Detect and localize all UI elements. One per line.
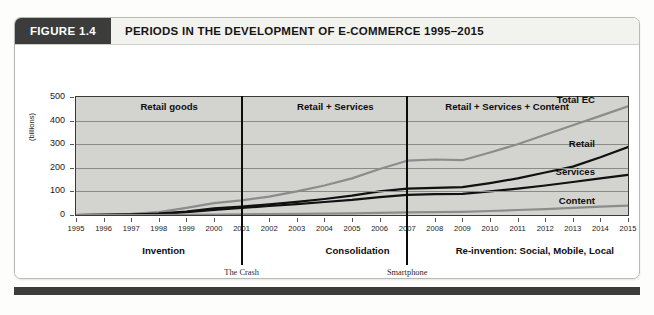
gridline — [76, 168, 628, 169]
y-tick-label: 500 — [35, 91, 65, 101]
period-divider — [241, 96, 243, 265]
x-tick-label: 1997 — [116, 224, 146, 233]
y-tick-mark — [70, 215, 74, 216]
figure-number-tag: FIGURE 1.4 — [15, 18, 111, 44]
series-lines — [76, 97, 628, 215]
series-line-total-ec — [76, 106, 628, 214]
event-label: The Crash2000 — [182, 267, 302, 279]
y-tick-mark — [70, 191, 74, 192]
x-tick-mark — [462, 218, 463, 222]
x-tick-label: 1999 — [171, 224, 201, 233]
figure-body: (billions) 0100200300400500 199519961997… — [15, 45, 639, 279]
series-label-content: Content — [559, 195, 595, 206]
x-tick-mark — [186, 218, 187, 222]
phase-label: Re-invention: Social, Mobile, Local — [456, 245, 614, 256]
phase-label: Invention — [142, 245, 185, 256]
x-tick-label: 2003 — [282, 224, 312, 233]
series-label-retail: Retail — [569, 138, 595, 149]
x-tick-label: 1996 — [89, 224, 119, 233]
x-tick-label: 2009 — [447, 224, 477, 233]
x-tick-label: 2008 — [420, 224, 450, 233]
y-tick-mark — [70, 168, 74, 169]
x-tick-mark — [628, 218, 629, 222]
y-tick-mark — [70, 121, 74, 122]
x-tick-label: 1998 — [144, 224, 174, 233]
series-label-total-ec: Total EC — [557, 94, 595, 105]
event-label: Smartphone2007 — [347, 267, 467, 279]
era-label: Retail + Services + Content — [445, 101, 569, 112]
x-tick-mark — [573, 218, 574, 222]
x-tick-label: 2004 — [309, 224, 339, 233]
y-tick-label: 100 — [35, 185, 65, 195]
x-tick-mark — [131, 218, 132, 222]
x-tick-mark — [435, 218, 436, 222]
x-tick-label: 2010 — [475, 224, 505, 233]
gridline — [76, 191, 628, 192]
event-name: Smartphone — [387, 268, 427, 277]
x-tick-label: 2006 — [365, 224, 395, 233]
event-name: The Crash — [224, 268, 259, 277]
phase-label: Consolidation — [326, 245, 390, 256]
x-tick-mark — [518, 218, 519, 222]
era-label: Retail goods — [140, 101, 198, 112]
figure-header: FIGURE 1.4 PERIODS IN THE DEVELOPMENT OF… — [15, 18, 639, 45]
series-label-services: Services — [556, 166, 595, 177]
figure-card: FIGURE 1.4 PERIODS IN THE DEVELOPMENT OF… — [14, 17, 640, 279]
y-tick-label: 0 — [35, 209, 65, 219]
x-tick-mark — [324, 218, 325, 222]
x-tick-label: 2013 — [558, 224, 588, 233]
x-tick-mark — [159, 218, 160, 222]
x-tick-label: 2005 — [337, 224, 367, 233]
period-divider — [406, 96, 408, 265]
x-tick-mark — [269, 218, 270, 222]
y-tick-mark — [70, 144, 74, 145]
figure-page: FIGURE 1.4 PERIODS IN THE DEVELOPMENT OF… — [0, 0, 654, 315]
x-tick-mark — [352, 218, 353, 222]
x-tick-mark — [490, 218, 491, 222]
x-tick-label: 2015 — [613, 224, 640, 233]
gridline — [76, 144, 628, 145]
x-tick-label: 2002 — [254, 224, 284, 233]
x-tick-mark — [214, 218, 215, 222]
x-tick-mark — [600, 218, 601, 222]
era-label: Retail + Services — [297, 101, 374, 112]
y-tick-label: 300 — [35, 138, 65, 148]
figure-title: PERIODS IN THE DEVELOPMENT OF E-COMMERCE… — [125, 18, 484, 44]
x-tick-mark — [297, 218, 298, 222]
x-tick-label: 2000 — [199, 224, 229, 233]
x-tick-mark — [545, 218, 546, 222]
gridline — [76, 121, 628, 122]
plot-area — [75, 96, 629, 216]
series-line-retail — [76, 147, 628, 215]
x-tick-label: 2012 — [530, 224, 560, 233]
x-tick-label: 1995 — [61, 224, 91, 233]
x-tick-mark — [76, 218, 77, 222]
x-tick-label: 2011 — [503, 224, 533, 233]
y-tick-label: 200 — [35, 162, 65, 172]
y-tick-label: 400 — [35, 115, 65, 125]
y-tick-mark — [70, 97, 74, 98]
x-tick-mark — [104, 218, 105, 222]
bottom-rule — [14, 287, 640, 295]
x-tick-mark — [380, 218, 381, 222]
x-tick-label: 2014 — [585, 224, 615, 233]
